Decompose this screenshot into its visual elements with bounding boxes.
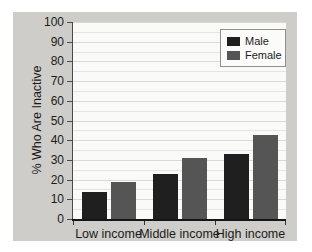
category-label: Middle income bbox=[139, 227, 220, 241]
legend-item-female: Female bbox=[227, 48, 280, 62]
y-tick-label: 100 bbox=[34, 16, 64, 28]
gridline bbox=[73, 81, 286, 82]
y-tick-mark bbox=[67, 42, 72, 43]
gridline bbox=[73, 22, 286, 23]
y-tick-mark bbox=[67, 81, 72, 82]
x-tick-mark bbox=[285, 221, 286, 225]
gridline bbox=[73, 130, 286, 131]
bar-female-1 bbox=[111, 182, 136, 219]
y-tick-label: 90 bbox=[34, 36, 64, 48]
gridline bbox=[73, 91, 286, 92]
y-tick-label: 20 bbox=[34, 174, 64, 186]
category-label: High income bbox=[216, 227, 285, 241]
legend-label: Male bbox=[245, 36, 269, 47]
bar-female-2 bbox=[182, 158, 207, 219]
gridline bbox=[73, 71, 286, 72]
chart-panel: % Who Are Inactive MaleFemale 0102030405… bbox=[13, 12, 297, 241]
y-tick-mark bbox=[67, 140, 72, 141]
bar-male-2 bbox=[153, 174, 178, 219]
gridline bbox=[73, 111, 286, 112]
category-label: Low income bbox=[75, 227, 142, 241]
y-tick-label: 30 bbox=[34, 154, 64, 166]
x-tick-mark bbox=[215, 221, 216, 225]
y-tick-label: 60 bbox=[34, 95, 64, 107]
figure: % Who Are Inactive MaleFemale 0102030405… bbox=[0, 0, 312, 252]
y-tick-label: 70 bbox=[34, 75, 64, 87]
y-tick-mark bbox=[67, 22, 72, 23]
bar-female-3 bbox=[253, 135, 278, 219]
y-tick-label: 50 bbox=[34, 115, 64, 127]
y-tick-mark bbox=[67, 101, 72, 102]
legend-item-male: Male bbox=[227, 34, 280, 48]
y-tick-mark bbox=[67, 61, 72, 62]
x-tick-mark bbox=[144, 221, 145, 225]
y-tick-mark bbox=[67, 199, 72, 200]
plot-area: MaleFemale 0102030405060708090100Low inc… bbox=[72, 22, 286, 219]
bar-male-3 bbox=[224, 154, 249, 219]
female-swatch-icon bbox=[227, 51, 240, 60]
bar-male-1 bbox=[82, 192, 107, 219]
legend: MaleFemale bbox=[220, 29, 286, 67]
y-tick-mark bbox=[67, 121, 72, 122]
y-tick-mark bbox=[67, 180, 72, 181]
y-tick-mark bbox=[67, 160, 72, 161]
y-tick-label: 10 bbox=[34, 193, 64, 205]
x-tick-mark bbox=[73, 221, 74, 225]
y-tick-label: 0 bbox=[34, 213, 64, 225]
male-swatch-icon bbox=[227, 37, 240, 46]
y-tick-label: 80 bbox=[34, 55, 64, 67]
gridline bbox=[73, 101, 286, 102]
legend-label: Female bbox=[245, 50, 282, 61]
x-axis-line bbox=[72, 219, 286, 221]
y-tick-mark bbox=[67, 219, 72, 220]
gridline bbox=[73, 121, 286, 122]
y-tick-label: 40 bbox=[34, 134, 64, 146]
